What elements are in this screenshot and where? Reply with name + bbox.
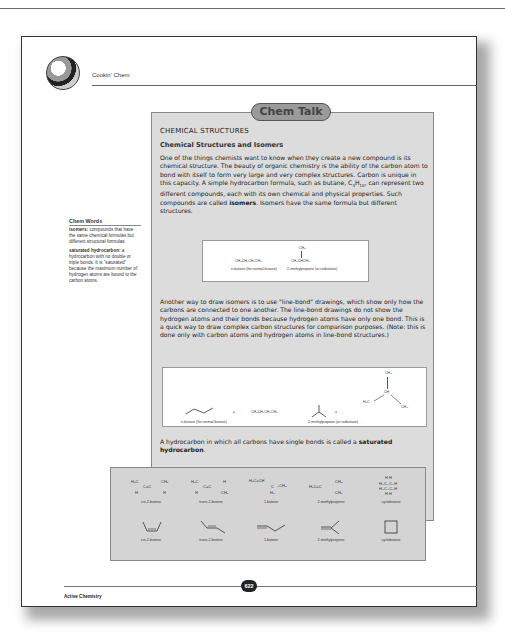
butene-structures-panel: H₃CCH₃ C=C HH cis-2-butene H₃CH C=C HCH₃… bbox=[110, 467, 426, 561]
structure-label: cyclobutane bbox=[361, 538, 421, 542]
chem-talk-content: CHEMICAL STRUCTURES Chemical Structures … bbox=[160, 124, 428, 215]
condensed-formula-box: CH₃CH₂CH₂CH₃ n-butane (for normal butane… bbox=[202, 240, 369, 282]
trans-2-butene-line-icon bbox=[181, 520, 241, 534]
nbutane-formula: CH₃CH₂CH₂CH₃ bbox=[251, 410, 277, 414]
iso-h3c: H₃C bbox=[363, 400, 370, 404]
term-isomers: isomers bbox=[229, 199, 256, 206]
top-rule bbox=[0, 8, 505, 9]
footer-divider bbox=[64, 586, 477, 587]
structure-label: 1-butene bbox=[241, 538, 301, 542]
svg-text:C: C bbox=[271, 484, 274, 489]
svg-text:H: H bbox=[163, 490, 166, 495]
isobutane-label: 2-methylpropane (or isobutane) bbox=[287, 267, 337, 271]
svg-text:H₂: H₂ bbox=[270, 490, 275, 495]
svg-text:CH₃: CH₃ bbox=[161, 479, 169, 484]
linebond-cyclobutane: cyclobutane bbox=[361, 520, 421, 542]
chapter-title: Cookin' Chem bbox=[92, 72, 130, 78]
paragraph-saturated: A hydrocarbon in which all carbons have … bbox=[160, 438, 428, 455]
line-bond-box: = CH₃CH₂CH₂CH₃ n-butane (for normal buta… bbox=[162, 367, 427, 427]
nbutane-label: n-butane (for normal butane) bbox=[181, 420, 227, 424]
isobutane-label: 2-methylpropane (or isobutane) bbox=[308, 420, 358, 424]
iso-ch3-top: CH₃ bbox=[385, 371, 392, 375]
1-butene-line-icon bbox=[241, 520, 301, 534]
structure-cyclobutane: H H H–C–C–H H–C–C–H H H cyclobutane bbox=[361, 474, 421, 504]
svg-text:CH₃: CH₃ bbox=[335, 479, 343, 484]
2-methylpropene-structure-icon: CH₃ H₂C=C CH₃ bbox=[301, 476, 361, 496]
structure-cis-2-butene: H₃CCH₃ C=C HH cis-2-butene bbox=[121, 476, 181, 504]
structure-label: 2-methylpropene bbox=[301, 538, 361, 542]
sidebar-title: Chem Words bbox=[69, 218, 141, 226]
bond-line bbox=[301, 251, 302, 258]
svg-text:CH₃: CH₃ bbox=[335, 490, 343, 495]
structure-label: trans-2-butene bbox=[181, 500, 241, 504]
cis-2-butene-line-icon bbox=[121, 520, 181, 534]
bond-line bbox=[387, 377, 388, 389]
structure-label: trans-2-butene bbox=[181, 538, 241, 542]
structure-1-butene: H₂C=CH C–CH₃ H₂ 1-butene bbox=[241, 476, 301, 504]
glossary-entry-saturated-hydrocarbon: saturated hydrocarbon: a hydrocarbon wit… bbox=[69, 248, 141, 284]
svg-text:H: H bbox=[223, 479, 226, 484]
subsection-title: Chemical Structures and Isomers bbox=[160, 141, 428, 149]
svg-text:CH₃: CH₃ bbox=[221, 490, 229, 495]
svg-text:H H: H H bbox=[385, 475, 392, 480]
page-number: 622 bbox=[241, 580, 257, 592]
svg-text:H H: H H bbox=[385, 491, 392, 496]
svg-text:H₃C: H₃C bbox=[191, 479, 199, 484]
nbutane-line-bond-icon bbox=[185, 406, 215, 416]
chef-knife-icon bbox=[46, 56, 80, 90]
linebond-trans-2-butene: trans-2-butene bbox=[181, 520, 241, 542]
book-title: Active Chemistry bbox=[64, 594, 102, 599]
linebond-1-butene: 1-butene bbox=[241, 520, 301, 542]
paragraph-line-bond: Another way to draw isomers is to use "l… bbox=[160, 298, 428, 339]
isobutane-ch3: CH₃ bbox=[299, 246, 306, 250]
structure-label: cis-2-butene bbox=[121, 500, 181, 504]
isobutane-formula: CH₃CHCH₃ bbox=[291, 259, 310, 263]
svg-text:H₂C=CH: H₂C=CH bbox=[249, 478, 265, 483]
svg-text:H₃C: H₃C bbox=[131, 479, 139, 484]
svg-text:H₂C=C: H₂C=C bbox=[309, 484, 322, 489]
trans-2-butene-structure-icon: H₃CH C=C HCH₃ bbox=[181, 476, 241, 496]
svg-text:H: H bbox=[135, 490, 138, 495]
cyclobutane-line-icon bbox=[361, 520, 421, 534]
structure-label: 2-methylpropene bbox=[301, 500, 361, 504]
2-methylpropene-line-icon bbox=[301, 520, 361, 534]
linebond-2-methylpropene: 2-methylpropene bbox=[301, 520, 361, 542]
chem-talk-badge: Chem Talk bbox=[251, 103, 331, 121]
section-title: CHEMICAL STRUCTURES bbox=[160, 127, 428, 135]
paragraph-isomers: One of the things chemists want to know … bbox=[160, 154, 428, 215]
header-divider bbox=[92, 85, 477, 86]
structure-trans-2-butene: H₃CH C=C HCH₃ trans-2-butene bbox=[181, 476, 241, 504]
cis-2-butene-structure-icon: H₃CCH₃ C=C HH bbox=[121, 476, 181, 496]
1-butene-structure-icon: H₂C=CH C–CH₃ H₂ bbox=[241, 476, 301, 496]
structure-2-methylpropene: CH₃ H₂C=C CH₃ 2-methylpropene bbox=[301, 476, 361, 504]
equals-sign: = bbox=[335, 410, 337, 414]
nbutane-formula: CH₃CH₂CH₂CH₃ bbox=[235, 259, 261, 263]
chem-words-sidebar: Chem Words isomers: compounds that have … bbox=[69, 218, 141, 287]
svg-text:H: H bbox=[195, 490, 198, 495]
svg-text:C=C: C=C bbox=[203, 484, 211, 489]
structure-label: cis-2-butene bbox=[121, 538, 181, 542]
structure-label: 1-butene bbox=[241, 500, 301, 504]
equals-sign: = bbox=[233, 410, 235, 414]
svg-text:–CH₃: –CH₃ bbox=[277, 483, 287, 488]
structure-label: cyclobutane bbox=[361, 500, 421, 504]
cyclobutane-structure-icon: H H H–C–C–H H–C–C–H H H bbox=[361, 474, 421, 496]
svg-text:C=C: C=C bbox=[143, 484, 151, 489]
isobutane-line-bond-icon bbox=[311, 404, 327, 418]
glossary-entry-isomers: isomers: compounds that have the same ch… bbox=[69, 227, 141, 245]
bond-lines bbox=[371, 392, 405, 406]
linebond-cis-2-butene: cis-2-butene bbox=[121, 520, 181, 542]
nbutane-label: n-butane (for normal butane) bbox=[231, 267, 277, 271]
